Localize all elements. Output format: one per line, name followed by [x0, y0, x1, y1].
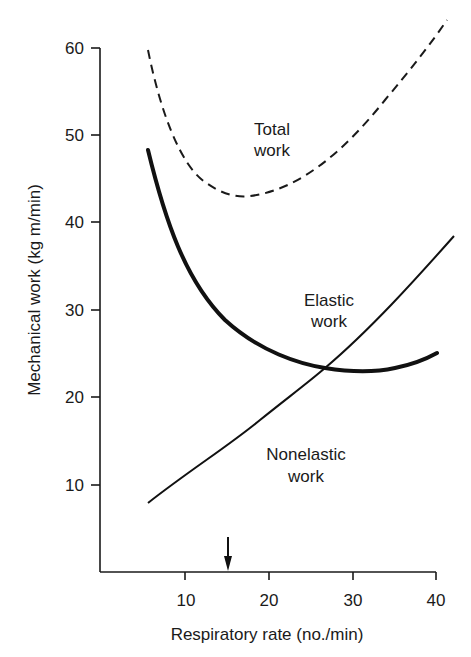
- x-tick-30: 30: [344, 591, 363, 610]
- y-tick-20: 20: [65, 388, 84, 407]
- chart-canvas: 60 50 40 30 20 10 10 20 30 40 Respirator…: [0, 0, 471, 657]
- label-total-line1: Total: [254, 120, 290, 139]
- label-nonelastic-line1: Nonelastic: [266, 445, 346, 464]
- y-tick-40: 40: [65, 213, 84, 232]
- x-axis-title: Respiratory rate (no./min): [171, 625, 364, 644]
- y-tick-10: 10: [65, 476, 84, 495]
- elastic-work-curve: [148, 150, 437, 371]
- normal-rate-arrow-icon: [224, 537, 232, 571]
- y-axis: [91, 48, 100, 572]
- label-elastic-line2: work: [310, 312, 347, 331]
- x-tick-10: 10: [177, 591, 196, 610]
- x-tick-20: 20: [260, 591, 279, 610]
- y-tick-50: 50: [65, 126, 84, 145]
- label-total-line2: work: [253, 141, 290, 160]
- x-axis: [100, 572, 436, 580]
- y-axis-title: Mechanical work (kg m/min): [25, 184, 44, 396]
- x-tick-40: 40: [427, 591, 446, 610]
- label-elastic-line1: Elastic: [304, 291, 355, 310]
- total-work-curve: [148, 20, 447, 196]
- y-tick-60: 60: [65, 39, 84, 58]
- y-tick-30: 30: [65, 301, 84, 320]
- label-nonelastic-line2: work: [287, 467, 324, 486]
